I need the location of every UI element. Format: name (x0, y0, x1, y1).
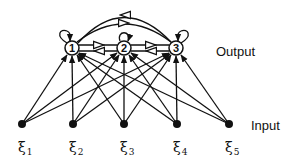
output-node-3: 3 (169, 41, 183, 55)
output-node-3-label: 3 (173, 42, 179, 54)
output-node-2: 2 (117, 41, 131, 55)
input-label-3: ξ3 (120, 139, 135, 157)
input-node-1 (18, 120, 26, 128)
feedforward-edges (22, 53, 229, 124)
input-layer-label: Input (251, 118, 280, 133)
input-labels: ξ1 ξ2 ξ3 ξ4 ξ5 (18, 139, 240, 157)
input-label-5: ξ5 (225, 139, 240, 157)
network-diagram: 1 2 3 ξ1 ξ2 ξ3 ξ4 ξ5 Output Input (0, 0, 301, 161)
input-node-2 (69, 120, 77, 128)
input-nodes (18, 120, 233, 128)
output-node-2-label: 2 (121, 42, 127, 54)
input-node-3 (120, 120, 128, 128)
input-label-2: ξ2 (69, 139, 83, 157)
input-label-4: ξ4 (173, 139, 188, 157)
output-node-1: 1 (65, 41, 79, 55)
output-node-1-label: 1 (69, 42, 75, 54)
input-node-4 (173, 120, 181, 128)
input-node-5 (225, 120, 233, 128)
input-label-1: ξ1 (18, 139, 32, 157)
self-loop-2 (119, 33, 128, 41)
output-layer-label: Output (216, 44, 255, 59)
